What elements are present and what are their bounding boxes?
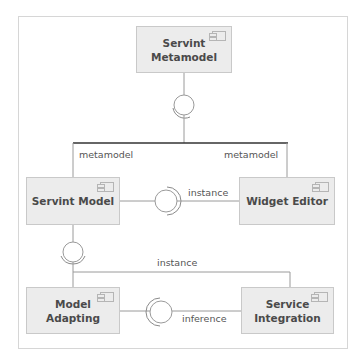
interface-model-icon <box>63 242 83 262</box>
label-metamodel-left: metamodel <box>79 149 133 160</box>
component-servint-model[interactable]: Servint Model <box>26 177 120 225</box>
component-icon <box>100 182 114 192</box>
label-line-1: Service <box>266 298 310 310</box>
label-metamodel-right: metamodel <box>224 149 278 160</box>
interface-instance-icon <box>155 190 177 212</box>
label-line-2: Metamodel <box>151 51 217 63</box>
label-instance-middle: instance <box>188 187 228 198</box>
component-icon <box>314 292 328 302</box>
component-widget-editor[interactable]: Widget Editor <box>239 177 335 225</box>
component-diagram: Servint Metamodel Servint Model Widget E… <box>0 0 360 358</box>
component-servint-metamodel[interactable]: Servint Metamodel <box>136 26 232 73</box>
label-instance-bottom: instance <box>157 257 197 268</box>
connector-instance-service-integration <box>73 272 290 287</box>
component-icon <box>100 292 114 302</box>
component-model-adapting[interactable]: Model Adapting <box>26 287 120 334</box>
component-label: Widget Editor <box>242 194 332 208</box>
interface-metamodel-icon <box>174 95 194 115</box>
component-icon <box>315 182 329 192</box>
label-line-1: Servint <box>163 37 206 49</box>
component-icon <box>212 31 226 41</box>
label-line-2: Integration <box>254 312 321 324</box>
label-inference: inference <box>182 313 226 324</box>
interface-inference-icon <box>150 301 172 323</box>
component-service-integration[interactable]: Service Integration <box>241 287 334 334</box>
component-label: Servint Model <box>28 194 118 208</box>
